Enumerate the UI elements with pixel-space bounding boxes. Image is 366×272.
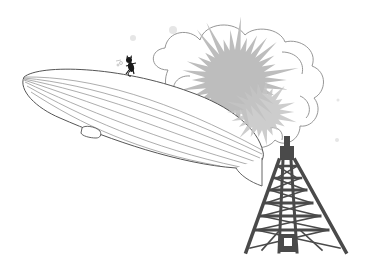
dust-puff <box>116 60 123 66</box>
illustration: Line illustration of a zeppelin airship … <box>0 0 366 272</box>
